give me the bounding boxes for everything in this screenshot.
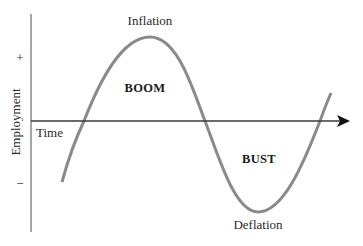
boom-label: BOOM (125, 81, 166, 95)
business-cycle-diagram: Inflation BOOM BUST Deflation Time + − E… (0, 0, 363, 246)
y-axis-minus-marker: − (16, 176, 23, 191)
y-axis-label: Employment (8, 88, 23, 156)
peak-label: Inflation (128, 13, 173, 28)
y-axis-plus-marker: + (16, 50, 23, 65)
trough-label: Deflation (233, 217, 283, 232)
bust-label: BUST (242, 152, 276, 166)
x-axis-label: Time (36, 125, 63, 140)
cycle-curve (62, 37, 331, 212)
